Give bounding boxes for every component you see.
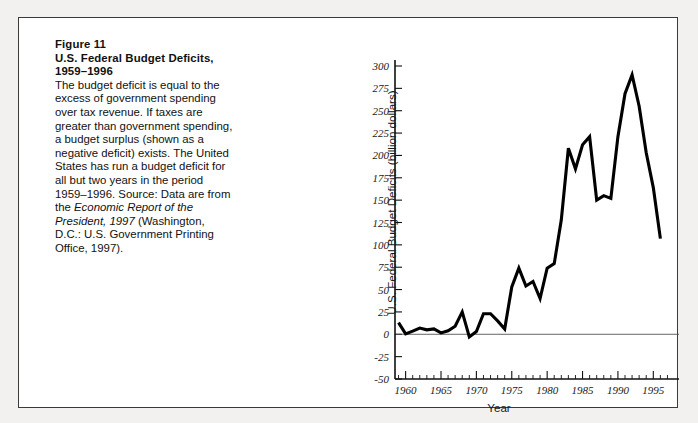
caption-title-line-3: 1959–1996	[55, 65, 113, 77]
y-tick-label: -50	[374, 373, 389, 385]
caption-body: The budget deficit is equal to the exces…	[55, 79, 233, 256]
x-tick-label: 1985	[572, 384, 595, 396]
y-tick-label: 300	[372, 60, 390, 72]
y-axis-title: U.S. Federal Budget Deficits (billion do…	[385, 73, 398, 333]
figure-frame: Figure 11 U.S. Federal Budget Deficits, …	[18, 17, 678, 408]
caption-title-line-1: Figure 11	[55, 38, 106, 50]
x-tick-label: 1980	[536, 384, 559, 396]
figure-caption: Figure 11 U.S. Federal Budget Deficits, …	[55, 38, 233, 256]
chart-plot-area: -50-250255075100125150175200225250275300…	[349, 48, 689, 418]
x-tick-label: 1990	[607, 384, 630, 396]
y-tick-label: -25	[374, 351, 389, 363]
x-tick-label: 1965	[430, 384, 453, 396]
x-axis-title: Year	[349, 401, 649, 414]
x-axis-ticks-group: 19601965197019751980198519901995	[395, 371, 668, 396]
caption-body-text: The budget deficit is equal to the exces…	[55, 79, 232, 213]
x-tick-label: 1975	[501, 384, 524, 396]
x-tick-label: 1995	[642, 384, 665, 396]
x-tick-label: 1960	[395, 384, 418, 396]
deficit-data-series	[399, 75, 661, 337]
caption-title-line-2: U.S. Federal Budget Deficits,	[55, 52, 214, 64]
x-tick-label: 1970	[465, 384, 488, 396]
caption-title: Figure 11 U.S. Federal Budget Deficits, …	[55, 38, 233, 79]
budget-deficit-line-chart: -50-250255075100125150175200225250275300…	[349, 48, 689, 418]
